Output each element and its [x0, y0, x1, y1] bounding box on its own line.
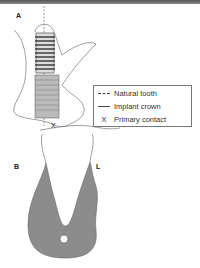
- dashed-line-icon: [98, 93, 110, 94]
- legend-item-implant-crown: Implant crown: [98, 102, 161, 111]
- solid-line-icon: [98, 106, 110, 107]
- nerve-canal: [60, 235, 68, 243]
- x-mark-icon: X: [98, 115, 110, 124]
- lower-tooth-outline: [41, 134, 93, 163]
- legend: Natural tooth Implant crown X Primary co…: [93, 85, 192, 127]
- label-lingual: L: [96, 163, 100, 170]
- legend-item-primary-contact: X Primary contact: [98, 115, 166, 124]
- implant-abutment: [35, 75, 59, 118]
- label-buccal: B: [14, 163, 19, 170]
- legend-item-natural-tooth: Natural tooth: [98, 89, 157, 98]
- contact-marker: X: [51, 122, 56, 129]
- diagram-canvas: X: [0, 0, 200, 268]
- panel-label-a: A: [16, 12, 21, 19]
- bone-shape: [28, 162, 97, 258]
